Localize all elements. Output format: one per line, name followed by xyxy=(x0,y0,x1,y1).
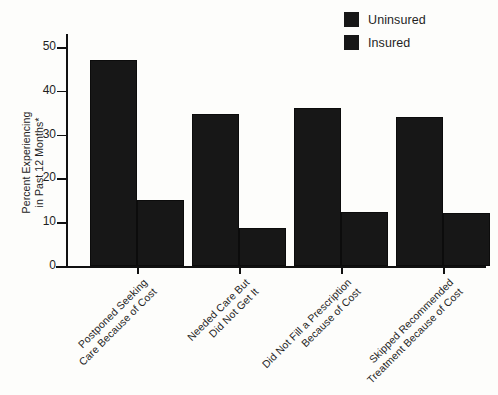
y-tick-30 xyxy=(57,135,66,137)
x-label-3: Skipped RecommendedTreatment Because of … xyxy=(355,276,465,386)
bar-group xyxy=(90,60,184,266)
x-tick-1 xyxy=(239,268,241,274)
x-label-1: Needed Care ButDid Not Get It xyxy=(185,276,262,353)
bar-uninsured-0 xyxy=(90,60,137,266)
legend-item-uninsured: Uninsured xyxy=(344,8,426,31)
bar-group xyxy=(192,114,286,266)
legend-label-uninsured: Uninsured xyxy=(368,13,426,27)
x-label-line: Postponed Seeking xyxy=(67,276,150,359)
bars-container xyxy=(68,34,486,266)
bar-uninsured-3 xyxy=(396,117,443,266)
x-tick-3 xyxy=(443,268,445,274)
x-label-line: Because of Cost xyxy=(269,285,364,380)
x-label-2: Did Not Fill a PrescriptionBecause of Co… xyxy=(259,276,363,380)
bar-uninsured-1 xyxy=(192,114,239,266)
y-tick-50 xyxy=(57,47,66,49)
legend-swatch-uninsured xyxy=(344,12,359,27)
x-tick-2 xyxy=(341,268,343,274)
y-tick-label-10: 10 xyxy=(30,214,56,228)
bar-group xyxy=(396,117,490,266)
bar-insured-1 xyxy=(239,228,286,266)
x-label-line: Did Not Fill a Prescription xyxy=(259,276,354,371)
x-label-line: Skipped Recommended xyxy=(355,276,456,377)
bar-uninsured-2 xyxy=(294,108,341,266)
x-label-0: Postponed SeekingCare Because of Cost xyxy=(67,276,159,368)
bar-group xyxy=(294,108,388,266)
y-tick-10 xyxy=(57,222,66,224)
y-tick-label-30: 30 xyxy=(30,127,56,141)
x-tick-0 xyxy=(137,268,139,274)
y-tick-0 xyxy=(57,266,66,268)
y-tick-label-20: 20 xyxy=(30,170,56,184)
y-tick-40 xyxy=(57,91,66,93)
y-tick-20 xyxy=(57,178,66,180)
y-tick-label-0: 0 xyxy=(30,258,56,272)
y-tick-label-40: 40 xyxy=(30,83,56,97)
x-label-line: Treatment Because of Cost xyxy=(364,285,465,386)
bar-insured-3 xyxy=(443,213,490,266)
y-tick-label-50: 50 xyxy=(30,39,56,53)
bar-chart-figure: Uninsured Insured Percent Experiencing i… xyxy=(0,0,498,395)
bar-insured-0 xyxy=(137,200,184,266)
plot-area: 01020304050 xyxy=(66,34,486,268)
bar-insured-2 xyxy=(341,212,388,266)
x-axis-line xyxy=(56,266,486,268)
